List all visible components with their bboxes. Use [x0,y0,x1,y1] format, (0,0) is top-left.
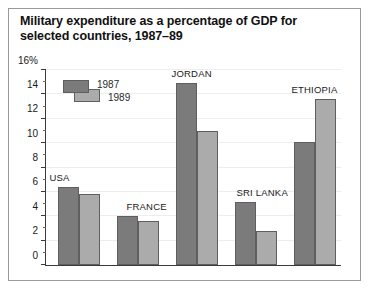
y-axis-label: 6 [8,176,38,187]
bar-group [176,70,218,265]
country-label-sri-lanka: SRI LANKA [237,187,288,198]
y-axis-minor-tick [43,203,46,204]
bar-ethiopia-1989 [315,99,336,265]
country-label-france: FRANCE [127,201,167,212]
bar-jordan-1989 [197,131,218,265]
y-axis-tick [41,93,46,94]
y-axis-minor-tick [43,252,46,253]
y-axis-label: 2 [8,225,38,236]
bar-group [294,70,336,265]
bar-usa-1987 [58,187,79,265]
y-axis-label: 14 [8,78,38,89]
y-axis-tick [41,118,46,119]
country-label-ethiopia: ETHIOPIA [292,84,338,95]
country-label-usa: USA [50,172,70,183]
y-axis-label: 4 [8,200,38,211]
y-axis-label: 16% [8,54,38,65]
chart-figure: Military expenditure as a percentage of … [0,0,369,289]
legend-label-1987: 1987 [97,79,119,90]
y-axis-minor-tick [43,81,46,82]
y-axis-tick [41,142,46,143]
bar-group [235,70,277,265]
y-axis-minor-tick [43,106,46,107]
y-axis-label: 10 [8,127,38,138]
y-axis-label: 0 [8,249,38,260]
bar-jordan-1987 [176,83,197,265]
bar-ethiopia-1987 [294,142,315,265]
bar-sri-lanka-1989 [256,231,277,265]
bar-usa-1989 [79,194,100,265]
y-axis-minor-tick [43,179,46,180]
y-axis-tick [41,215,46,216]
y-axis-label: 8 [8,152,38,163]
y-axis-tick [41,69,46,70]
y-axis-minor-tick [43,227,46,228]
y-axis-tick [41,191,46,192]
y-axis-tick [41,264,46,265]
chart-title: Military expenditure as a percentage of … [20,14,342,44]
y-axis-tick [41,167,46,168]
y-axis-tick [41,240,46,241]
y-axis-label: 12 [8,103,38,114]
chart-legend: 1987 1989 [63,80,168,114]
y-axis-minor-tick [43,130,46,131]
country-label-jordan: JORDAN [172,68,212,79]
bar-sri-lanka-1987 [235,202,256,265]
bar-france-1987 [117,216,138,265]
bar-france-1989 [138,221,159,265]
legend-label-1989: 1989 [108,92,130,103]
y-axis-minor-tick [43,154,46,155]
legend-swatch-1987 [63,80,89,93]
